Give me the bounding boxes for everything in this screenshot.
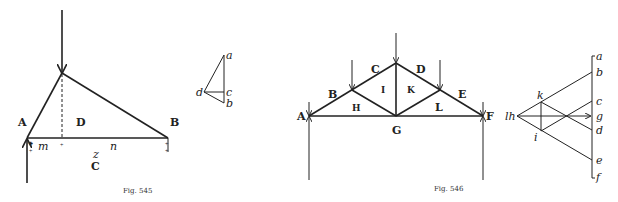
- truss-label-K: K: [407, 85, 416, 95]
- label-C: C: [91, 160, 100, 173]
- caption-fig545: Fig. 545: [123, 187, 152, 195]
- fp1-label-b: b: [226, 97, 233, 110]
- fp2-label-g: g: [596, 110, 603, 123]
- fp2-label-d: d: [596, 124, 603, 137]
- fig545-force-polygon: [204, 55, 224, 103]
- fp2-label-h: lh: [505, 110, 516, 123]
- fp1-label-d: d: [196, 86, 203, 99]
- fp2-label-i: i: [534, 131, 538, 144]
- label-B: B: [170, 116, 179, 129]
- fp2-label-e: e: [596, 154, 603, 167]
- truss-label-E: E: [458, 88, 466, 101]
- truss-label-C: C: [371, 63, 380, 76]
- truss-label-D: D: [416, 63, 426, 76]
- fp2-label-a: a: [596, 50, 603, 63]
- truss-label-A: A: [296, 110, 306, 123]
- truss-label-I: I: [381, 85, 385, 95]
- truss-label-G: G: [392, 124, 401, 137]
- svg-text:+: +: [29, 141, 33, 147]
- fp2-label-f: f: [595, 171, 602, 184]
- caption-fig546: Fig. 546: [434, 185, 464, 193]
- web-right: [396, 90, 440, 116]
- truss-label-F: F: [486, 110, 494, 123]
- truss-label-L: L: [435, 101, 443, 114]
- truss-label-H: H: [352, 103, 361, 113]
- label-n: n: [110, 140, 117, 153]
- fp2-label-b: b: [596, 66, 603, 79]
- truss-label-B: B: [328, 88, 337, 101]
- member-left: [27, 73, 62, 138]
- svg-text:+: +: [29, 148, 33, 154]
- diagram-canvas: + + + + + A D B m n z C Fig. 545 a c b d…: [0, 0, 618, 202]
- fig546-force-polygon: [517, 56, 595, 178]
- label-A: A: [17, 116, 27, 129]
- svg-text:+: +: [60, 142, 64, 148]
- label-m: m: [38, 140, 48, 153]
- fig546-truss: [309, 33, 483, 180]
- fp1-label-a: a: [226, 49, 233, 62]
- label-D: D: [76, 116, 86, 129]
- fp2-label-k: k: [537, 89, 544, 102]
- fp2-label-c: c: [596, 95, 602, 108]
